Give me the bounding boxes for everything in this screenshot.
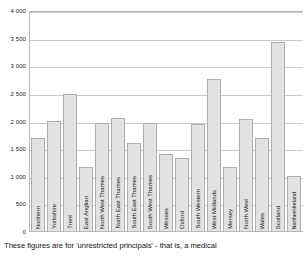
bar-slot: Wessex bbox=[158, 12, 174, 231]
x-axis-category-label: Oxford bbox=[174, 211, 190, 229]
x-axis-category-label: East Anglian bbox=[78, 196, 94, 229]
x-axis-category-label: North West bbox=[238, 199, 254, 229]
plot-area: NorthernYorkshireTrentEast AnglianNorth … bbox=[29, 11, 303, 232]
y-axis-tick-label: 2 500 bbox=[10, 91, 26, 97]
bar-slot: Wales bbox=[254, 12, 270, 231]
bar-slot: Scotland bbox=[270, 12, 286, 231]
bar-chart-figure: 05001 0001 5002 0002 5003 0003 5004 000 … bbox=[0, 0, 304, 259]
bar-slot: North West bbox=[238, 12, 254, 231]
bar-slot: South Western bbox=[190, 12, 206, 231]
y-axis-tick-label: 0 bbox=[23, 229, 26, 235]
x-axis-category-label: Wessex bbox=[158, 208, 174, 229]
x-axis-category-label: West Midlands bbox=[206, 190, 222, 229]
figure-caption: These figures are for 'unrestricted prin… bbox=[4, 241, 300, 251]
y-axis-tick-label: 3 500 bbox=[10, 36, 26, 42]
bar-slot: Yorkshire bbox=[46, 12, 62, 231]
bar-slot: East Anglian bbox=[78, 12, 94, 231]
bar-slot: South East Thames bbox=[126, 12, 142, 231]
bar-slot: North West Thames bbox=[94, 12, 110, 231]
bars-group: NorthernYorkshireTrentEast AnglianNorth … bbox=[30, 12, 303, 231]
x-axis-category-label: Trent bbox=[62, 215, 78, 229]
x-axis-category-label: NorthernIreland bbox=[286, 192, 302, 229]
bar-slot: North East Thames bbox=[110, 12, 126, 231]
x-axis-category-label: Wales bbox=[254, 213, 270, 229]
y-axis-tick-label: 1 000 bbox=[10, 174, 26, 180]
x-axis-category-label: Scotland bbox=[270, 206, 286, 229]
y-axis-tick-label: 2 000 bbox=[10, 119, 26, 125]
bar-slot: Mersey bbox=[222, 12, 238, 231]
x-axis-category-label: South West Thames bbox=[142, 175, 158, 229]
bar-slot: Trent bbox=[62, 12, 78, 231]
bar-slot: Northern bbox=[30, 12, 46, 231]
bar-slot: West Midlands bbox=[206, 12, 222, 231]
y-axis-tick-label: 3 000 bbox=[10, 63, 26, 69]
y-axis-tick-label: 4 000 bbox=[10, 8, 26, 14]
x-axis-category-label: South East Thames bbox=[126, 176, 142, 229]
y-axis-tick-label: 1 500 bbox=[10, 146, 26, 152]
y-axis-tick-label: 500 bbox=[16, 201, 26, 207]
x-axis-category-label: Mersey bbox=[222, 209, 238, 229]
bar-slot: Oxford bbox=[174, 12, 190, 231]
x-axis-category-label: Yorkshire bbox=[46, 204, 62, 229]
x-axis-category-label: South Western bbox=[190, 189, 206, 229]
x-axis-category-label: North East Thames bbox=[110, 177, 126, 229]
y-axis: 05001 0001 5002 0002 5003 0003 5004 000 bbox=[0, 0, 29, 232]
bar-slot: South West Thames bbox=[142, 12, 158, 231]
bar[interactable] bbox=[271, 42, 285, 232]
x-axis-category-label: Northern bbox=[30, 206, 46, 229]
bar-slot: NorthernIreland bbox=[286, 12, 302, 231]
x-axis-category-label: North West Thames bbox=[94, 176, 110, 229]
bar[interactable] bbox=[63, 94, 77, 231]
